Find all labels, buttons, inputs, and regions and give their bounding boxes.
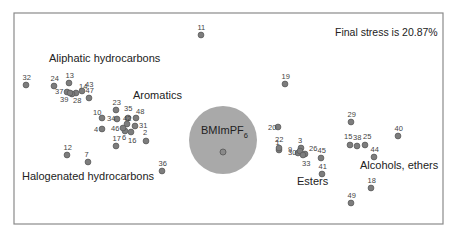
group-label: Halogenated hydrocarbons (22, 170, 155, 182)
data-point-31: 31 (132, 121, 147, 130)
point-marker (362, 142, 368, 148)
reference-bubble: BMImPF6 (189, 106, 257, 174)
point-marker (395, 133, 401, 139)
point-marker (86, 95, 92, 101)
data-point-16: 16 (128, 129, 136, 145)
point-label: 46 (111, 124, 119, 133)
point-marker (198, 32, 204, 38)
stress-annotation: Final stress is 20.87% (335, 26, 438, 38)
point-label: 17 (113, 134, 121, 143)
data-point-45: 45 (318, 146, 326, 161)
point-marker (300, 152, 306, 158)
point-label: 41 (319, 162, 327, 171)
data-point-18: 18 (368, 176, 376, 191)
point-label: 38 (353, 133, 361, 142)
point-label: 6 (122, 133, 126, 142)
point-label: 34 (107, 114, 115, 123)
data-point-34: 34 (107, 114, 120, 123)
point-marker (368, 185, 374, 191)
point-marker (282, 81, 288, 87)
group-label: Esters (297, 175, 329, 187)
point-label: 7 (85, 150, 89, 159)
data-point-33: 33 (300, 152, 310, 168)
data-point-32: 32 (23, 73, 31, 88)
point-label: 42 (123, 114, 131, 123)
point-label: 12 (64, 143, 72, 152)
point-marker (143, 138, 149, 144)
point-label: 40 (395, 124, 403, 133)
reference-circle (189, 106, 257, 174)
point-label: 49 (348, 191, 356, 200)
data-point-17: 17 (113, 134, 121, 149)
point-label: 20 (268, 123, 276, 132)
data-point-40: 40 (395, 124, 403, 139)
data-point-47: 47 (86, 86, 94, 101)
point-marker (348, 119, 354, 125)
point-label: 18 (368, 176, 376, 185)
point-marker (113, 143, 119, 149)
point-label: 36 (159, 159, 167, 168)
point-label: 19 (282, 72, 290, 81)
point-label: 16 (128, 136, 136, 145)
data-point-13: 13 (66, 71, 74, 86)
point-label: 32 (23, 73, 31, 82)
point-label: 22 (275, 135, 283, 144)
data-point-12: 12 (64, 143, 72, 158)
point-marker (113, 107, 119, 113)
point-label: 24 (51, 74, 59, 83)
point-label: 35 (124, 104, 132, 113)
data-point-10: 10 (93, 108, 105, 121)
reference-point (220, 149, 226, 155)
point-label: 31 (139, 121, 147, 130)
point-marker (318, 155, 324, 161)
point-label: 23 (113, 98, 121, 107)
point-label: 29 (348, 110, 356, 119)
data-point-36: 36 (159, 159, 167, 174)
point-label: 33 (302, 159, 310, 168)
data-point-19: 19 (282, 72, 290, 87)
point-marker (120, 125, 126, 131)
data-point-4: 4 (94, 125, 105, 134)
group-label: Aliphatic hydrocarbons (49, 52, 161, 64)
point-label: 26 (309, 144, 317, 153)
point-label: 30 (288, 148, 296, 157)
data-point-11: 11 (198, 23, 206, 38)
point-label: 13 (66, 71, 74, 80)
data-point-38: 38 (353, 133, 361, 149)
point-marker (99, 126, 105, 132)
point-marker (159, 168, 165, 174)
data-point-44: 44 (371, 145, 379, 160)
point-label: 10 (93, 108, 101, 117)
data-point-22: 22 (275, 135, 283, 151)
mds-scatter-chart: BMImPF6 12346791011121314151617181920222… (0, 0, 454, 236)
point-label: 11 (198, 23, 206, 32)
point-label: 3 (298, 136, 302, 145)
data-point-15: 15 (344, 132, 353, 148)
data-point-29: 29 (348, 110, 356, 125)
point-label: 15 (344, 132, 352, 141)
group-label: Alcohols, ethers (360, 159, 439, 171)
point-marker (64, 152, 70, 158)
point-label: 48 (136, 107, 144, 116)
point-label: 45 (318, 146, 326, 155)
point-label: 25 (363, 132, 371, 141)
data-point-20: 20 (268, 123, 281, 132)
point-marker (128, 129, 134, 135)
point-label: 28 (73, 96, 81, 105)
point-marker (276, 145, 282, 151)
point-marker (347, 142, 353, 148)
data-point-49: 49 (348, 191, 356, 206)
point-marker (132, 123, 138, 129)
point-label: 39 (60, 95, 68, 104)
point-marker (348, 200, 354, 206)
data-point-2: 2 (143, 128, 149, 144)
point-label: 47 (86, 86, 94, 95)
point-label: 44 (371, 145, 379, 154)
group-label: Aromatics (133, 89, 182, 101)
data-point-48: 48 (133, 107, 144, 121)
point-marker (85, 159, 91, 165)
point-marker (66, 80, 72, 86)
point-marker (23, 82, 29, 88)
data-point-23: 23 (113, 98, 121, 113)
data-point-7: 7 (85, 150, 91, 165)
